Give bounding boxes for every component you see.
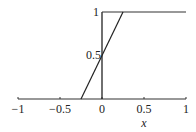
x-tick-label: 1	[183, 102, 189, 116]
chart: −1 −0.5 0 0.5 1 0.5 1 x	[0, 0, 196, 132]
y-tick-label: 0.5	[86, 48, 101, 62]
y-tick-label: 1	[93, 5, 99, 19]
x-tick-label: 0.5	[137, 102, 152, 116]
x-tick-label: −0.5	[49, 102, 71, 116]
x-tick-label: −1	[12, 102, 25, 116]
x-axis-title: x	[140, 116, 147, 130]
x-tick-label: 0	[99, 102, 105, 116]
